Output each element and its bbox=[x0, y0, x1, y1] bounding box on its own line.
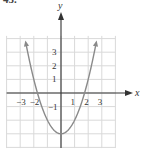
svg-text:−2: −2 bbox=[30, 97, 40, 107]
svg-text:3: 3 bbox=[98, 97, 103, 107]
svg-text:1: 1 bbox=[52, 74, 57, 84]
svg-text:2: 2 bbox=[52, 61, 57, 71]
svg-text:2: 2 bbox=[84, 97, 89, 107]
svg-text:y: y bbox=[57, 0, 63, 11]
parabola-graph: xy −3−2123321−1 bbox=[0, 0, 142, 161]
svg-text:−1: −1 bbox=[48, 102, 58, 112]
svg-text:x: x bbox=[134, 87, 140, 98]
svg-text:1: 1 bbox=[71, 97, 76, 107]
svg-text:−3: −3 bbox=[16, 97, 26, 107]
axes: xy bbox=[7, 0, 140, 148]
svg-text:3: 3 bbox=[52, 47, 57, 57]
